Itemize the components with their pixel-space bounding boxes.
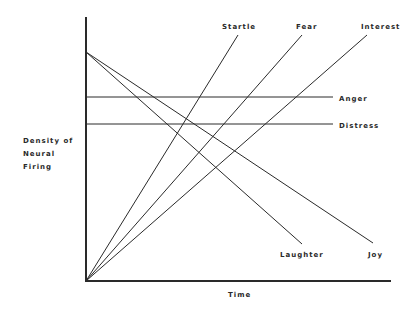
x-axis-label: Time (228, 291, 251, 299)
laughter-label: Laughter (280, 251, 324, 259)
y-axis-label-line2: Neural (23, 150, 55, 158)
neural-firing-diagram: Startle Fear Interest Anger Distress Lau… (0, 0, 414, 311)
fear-label: Fear (296, 23, 317, 31)
y-axis-label-line1: Density of (23, 137, 73, 145)
interest-line (86, 35, 367, 281)
distress-label: Distress (339, 122, 379, 130)
laughter-line (86, 52, 302, 244)
joy-line (86, 52, 373, 243)
joy-label: Joy (367, 251, 383, 259)
anger-label: Anger (339, 95, 368, 103)
y-axis-label-line3: Firing (23, 163, 52, 171)
fear-line (86, 35, 302, 281)
startle-label: Startle (222, 23, 256, 31)
interest-label: Interest (361, 23, 400, 31)
